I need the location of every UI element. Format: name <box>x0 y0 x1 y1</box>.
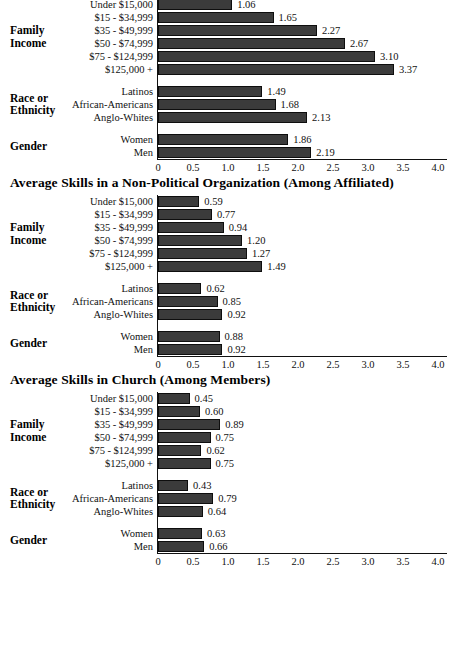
chart-title: Average Skills in a Non-Political Organi… <box>10 175 458 191</box>
x-axis-ticks: 00.51.01.52.02.53.03.54.0 <box>0 554 458 569</box>
bar <box>158 248 247 259</box>
bar <box>158 309 222 320</box>
bar-row: $75 - $124,9991.27 <box>0 247 458 260</box>
category-label: Under $15,000 <box>0 392 153 405</box>
bar-row: $125,000 +1.49 <box>0 260 458 273</box>
bar-value-label: 0.94 <box>229 221 247 234</box>
bar <box>158 235 242 246</box>
group-spacer <box>0 124 458 133</box>
y-axis-line <box>157 392 158 553</box>
bar-track: 1.65 <box>158 12 458 23</box>
bar <box>158 406 200 417</box>
bar-row: Men0.92 <box>0 343 458 356</box>
bar-row: $15 - $34,9990.77 <box>0 208 458 221</box>
bar-row: Women0.63 <box>0 527 458 540</box>
bar-value-label: 0.92 <box>227 343 245 356</box>
bar-value-label: 0.59 <box>204 195 222 208</box>
category-label: Women <box>0 330 153 343</box>
bar-value-label: 0.60 <box>205 405 223 418</box>
x-tick-label: 2.5 <box>326 162 339 174</box>
bar-value-label: 1.49 <box>267 260 285 273</box>
x-tick-label: 3.5 <box>396 556 409 568</box>
x-tick-label: 3.5 <box>396 162 409 174</box>
category-label: $15 - $34,999 <box>0 11 153 24</box>
bar-group: FamilyIncomeUnder $15,0001.06$15 - $34,9… <box>0 0 458 76</box>
bar-track: 1.68 <box>158 99 458 110</box>
bar-row: Men2.19 <box>0 146 458 159</box>
bar <box>158 283 201 294</box>
chart-title: Average Skills in Church (Among Members) <box>10 372 458 388</box>
x-axis-ticks: 00.51.01.52.02.53.03.54.0 <box>0 160 458 175</box>
bar-track: 1.20 <box>158 235 458 246</box>
x-tick-label: 1.0 <box>221 556 234 568</box>
plot-area: FamilyIncomeUnder $15,0001.06$15 - $34,9… <box>0 0 458 159</box>
bar <box>158 419 220 430</box>
x-tick-label: 1.5 <box>256 556 269 568</box>
category-label: $125,000 + <box>0 260 153 273</box>
bar-track: 0.85 <box>158 296 458 307</box>
x-tick-label: 3.5 <box>396 359 409 371</box>
category-label: $35 - $49,999 <box>0 418 153 431</box>
bar-value-label: 0.77 <box>217 208 235 221</box>
category-label: $50 - $74,999 <box>0 37 153 50</box>
bar-track: 0.64 <box>158 506 458 517</box>
charts-container: FamilyIncomeUnder $15,0001.06$15 - $34,9… <box>0 0 458 569</box>
bar-group: FamilyIncomeUnder $15,0000.59$15 - $34,9… <box>0 195 458 273</box>
bar <box>158 458 211 469</box>
category-label: $75 - $124,999 <box>0 444 153 457</box>
bar-group: Race orEthnicityLatinos1.49African-Ameri… <box>0 85 458 124</box>
bar-group: Race orEthnicityLatinos0.62African-Ameri… <box>0 282 458 321</box>
category-label: $75 - $124,999 <box>0 247 153 260</box>
bar-track: 2.13 <box>158 112 458 123</box>
bar-value-label: 1.86 <box>293 133 311 146</box>
bar-row: $35 - $49,9990.94 <box>0 221 458 234</box>
bar-track: 1.49 <box>158 261 458 272</box>
bar <box>158 528 202 539</box>
bar-value-label: 0.66 <box>209 540 227 553</box>
bar <box>158 147 311 158</box>
bar-group: Race orEthnicityLatinos0.43African-Ameri… <box>0 479 458 518</box>
bar-value-label: 1.68 <box>281 98 299 111</box>
bar-value-label: 2.13 <box>312 111 330 124</box>
bar <box>158 222 224 233</box>
bar <box>158 134 288 145</box>
bar-track: 0.88 <box>158 331 458 342</box>
bar-track: 1.06 <box>158 0 458 10</box>
bar-value-label: 0.63 <box>207 527 225 540</box>
bar-row: $75 - $124,9990.62 <box>0 444 458 457</box>
x-tick-label: 0 <box>155 359 160 371</box>
bar-value-label: 1.20 <box>247 234 265 247</box>
bar-track: 0.89 <box>158 419 458 430</box>
bar <box>158 480 188 491</box>
bar <box>158 99 276 110</box>
category-label: Women <box>0 527 153 540</box>
bar-row: Under $15,0000.59 <box>0 195 458 208</box>
bar-value-label: 1.27 <box>252 247 270 260</box>
bar <box>158 506 203 517</box>
bar-track: 0.62 <box>158 445 458 456</box>
bar <box>158 393 190 404</box>
x-tick-label: 4.0 <box>431 359 444 371</box>
bar-row: Latinos0.43 <box>0 479 458 492</box>
bar-row: Anglo-Whites0.92 <box>0 308 458 321</box>
x-tick-label: 1.5 <box>256 162 269 174</box>
x-tick-label: 1.5 <box>256 359 269 371</box>
category-label: Men <box>0 146 153 159</box>
plot-area: FamilyIncomeUnder $15,0000.45$15 - $34,9… <box>0 392 458 553</box>
bar-value-label: 1.65 <box>279 11 297 24</box>
bar-group: GenderWomen0.63Men0.66 <box>0 527 458 553</box>
chart-block-1: Average Skills in a Non-Political Organi… <box>0 175 458 372</box>
bar <box>158 25 317 36</box>
bar-track: 0.92 <box>158 309 458 320</box>
bar <box>158 541 204 552</box>
bar <box>158 344 222 355</box>
bar-row: Latinos0.62 <box>0 282 458 295</box>
category-label: Anglo-Whites <box>0 505 153 518</box>
bar <box>158 38 345 49</box>
bar-row: Anglo-Whites0.64 <box>0 505 458 518</box>
bar-row: $125,000 +0.75 <box>0 457 458 470</box>
group-spacer <box>0 273 458 282</box>
bar <box>158 12 274 23</box>
bar-track: 1.27 <box>158 248 458 259</box>
category-label: Men <box>0 343 153 356</box>
